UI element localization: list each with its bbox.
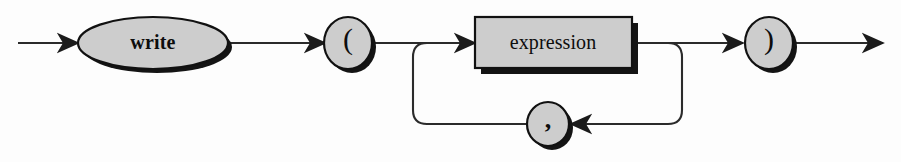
node-rparen[interactable]: ) (745, 17, 797, 73)
expression-label: expression (510, 31, 597, 54)
rparen-label: ) (764, 22, 774, 56)
write-label: write (130, 31, 175, 53)
lparen-label: ( (343, 22, 353, 56)
node-comma[interactable]: , (527, 102, 573, 150)
comma-label: , (545, 105, 552, 134)
syntax-diagram-canvas: write ( expression ) , (0, 0, 901, 162)
node-expression[interactable]: expression (475, 17, 638, 74)
node-write[interactable]: write (78, 17, 232, 73)
node-lparen[interactable]: ( (324, 17, 376, 73)
railroad-diagram: write ( expression ) , (0, 0, 901, 162)
